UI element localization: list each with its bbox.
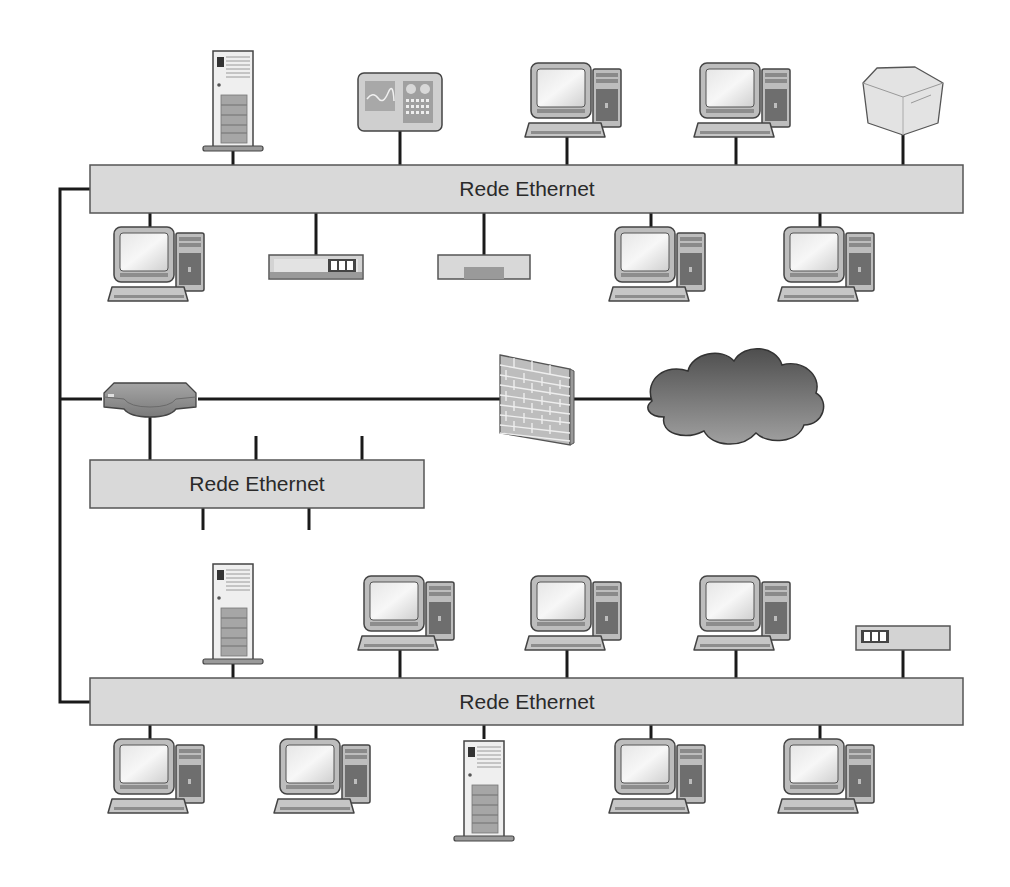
workstation-top-2-icon[interactable] [694,63,790,137]
bus-label: Rede Ethernet [459,690,595,713]
hub-top-icon[interactable] [269,255,363,279]
workstation-bottom-4-icon[interactable] [108,739,204,813]
workstation-bottom-7-icon[interactable] [778,739,874,813]
workstation-top-1-icon[interactable] [525,63,621,137]
bus-bottom: Rede Ethernet [90,678,963,725]
modem-top-icon[interactable] [438,255,530,279]
server-bottom-2-icon[interactable] [454,741,514,841]
workstation-top-4-icon[interactable] [609,227,705,301]
workstation-bottom-1-icon[interactable] [358,576,454,650]
workstation-bottom-6-icon[interactable] [609,739,705,813]
bus-middle: Rede Ethernet [90,460,424,508]
internet-cloud-icon [648,349,824,444]
bus-label: Rede Ethernet [459,177,595,200]
server-bottom-1-icon[interactable] [203,564,263,664]
firewall-icon[interactable] [500,355,574,445]
network-diagram: Rede EthernetRede EthernetRede Ethernet [0,0,1010,887]
backbone-trunk [60,189,90,702]
workstation-bottom-5-icon[interactable] [274,739,370,813]
workstation-bottom-2-icon[interactable] [525,576,621,650]
printer-icon[interactable] [863,67,943,135]
workstation-bottom-3-icon[interactable] [694,576,790,650]
monitoring-panel-icon[interactable] [358,73,442,131]
server-top-icon[interactable] [203,51,263,151]
bus-top: Rede Ethernet [90,165,963,213]
router-icon[interactable] [104,383,196,417]
workstation-top-5-icon[interactable] [778,227,874,301]
hub-bottom-icon[interactable] [856,626,950,650]
bus-label: Rede Ethernet [189,472,325,495]
workstation-top-3-icon[interactable] [108,227,204,301]
